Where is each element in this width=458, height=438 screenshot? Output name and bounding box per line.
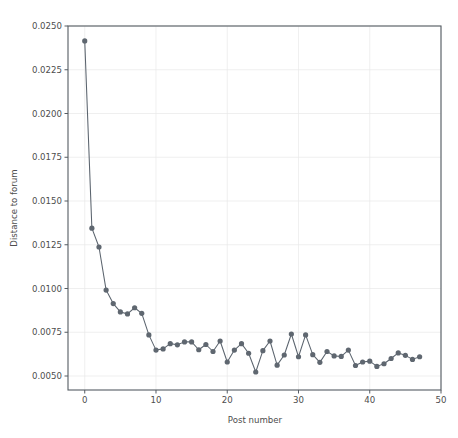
data-point <box>332 353 337 358</box>
y-tick-label: 0.0050 <box>32 371 62 381</box>
data-point <box>267 338 272 343</box>
data-point <box>303 332 308 337</box>
data-point <box>346 348 351 353</box>
y-tick-label: 0.0175 <box>32 152 62 162</box>
data-point <box>189 339 194 344</box>
data-point <box>374 364 379 369</box>
gridlines <box>68 26 441 390</box>
x-tick-label: 20 <box>222 395 233 405</box>
data-point <box>182 339 187 344</box>
x-tick-label: 30 <box>293 395 304 405</box>
data-point <box>153 348 158 353</box>
y-tick-labels: 0.00500.00750.01000.01250.01500.01750.02… <box>32 21 62 381</box>
y-tick-label: 0.0225 <box>32 65 62 75</box>
x-tick-label: 0 <box>82 395 87 405</box>
data-point <box>196 347 201 352</box>
tick-marks <box>65 26 442 394</box>
y-tick-label: 0.0200 <box>32 109 62 119</box>
data-point <box>360 359 365 364</box>
data-point <box>203 342 208 347</box>
figure-container: 0.00500.00750.01000.01250.01500.01750.02… <box>0 0 458 438</box>
data-point <box>89 226 94 231</box>
data-point <box>253 369 258 374</box>
data-point <box>175 342 180 347</box>
data-point <box>324 349 329 354</box>
data-point <box>282 352 287 357</box>
data-point <box>246 351 251 356</box>
data-point <box>396 350 401 355</box>
line-chart: 0.00500.00750.01000.01250.01500.01750.02… <box>0 0 458 438</box>
data-point <box>118 309 123 314</box>
axes-spines <box>68 26 441 390</box>
data-point <box>417 354 422 359</box>
data-point <box>367 359 372 364</box>
data-point <box>168 341 173 346</box>
data-point <box>232 348 237 353</box>
x-tick-label: 10 <box>151 395 162 405</box>
data-point <box>403 353 408 358</box>
data-point <box>410 357 415 362</box>
x-axis-title: Post number <box>228 415 283 425</box>
data-point <box>389 356 394 361</box>
y-axis-title: Distance to forum <box>9 169 19 246</box>
data-point <box>96 244 101 249</box>
data-point <box>239 341 244 346</box>
y-tick-label: 0.0125 <box>32 240 62 250</box>
data-point <box>225 359 230 364</box>
data-point <box>104 287 109 292</box>
data-point <box>161 346 166 351</box>
data-point <box>317 360 322 365</box>
data-point <box>353 363 358 368</box>
y-tick-label: 0.0100 <box>32 284 62 294</box>
x-tick-label: 50 <box>436 395 447 405</box>
data-point <box>310 352 315 357</box>
x-tick-label: 40 <box>364 395 375 405</box>
data-point <box>218 338 223 343</box>
data-point <box>275 363 280 368</box>
data-point <box>132 305 137 310</box>
data-point <box>296 354 301 359</box>
data-point <box>139 311 144 316</box>
y-tick-label: 0.0075 <box>32 327 62 337</box>
data-point <box>125 311 130 316</box>
data-point <box>111 301 116 306</box>
y-tick-label: 0.0250 <box>32 21 62 31</box>
data-point <box>210 349 215 354</box>
data-point <box>146 332 151 337</box>
y-tick-label: 0.0150 <box>32 196 62 206</box>
x-tick-labels: 01020304050 <box>82 395 446 405</box>
data-point <box>339 354 344 359</box>
data-point <box>82 38 87 43</box>
data-point <box>289 331 294 336</box>
data-point <box>260 348 265 353</box>
data-point <box>381 361 386 366</box>
data-series <box>82 38 422 374</box>
